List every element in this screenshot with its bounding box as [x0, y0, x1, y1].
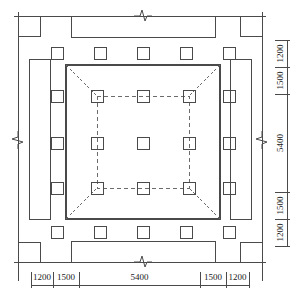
edge-band-top-break-symbol: [134, 10, 152, 21]
hip-diagonal-bottom-right: [189, 188, 220, 219]
dimension-label-bottom-1: 1500: [57, 272, 76, 282]
edge-band-left: [29, 59, 50, 219]
dimension-label-bottom-2: 5400: [131, 272, 150, 282]
column-outer-left-1: [51, 137, 63, 149]
column-outer-bottom-3: [180, 226, 192, 238]
dimension-label-right-0: 1200: [275, 44, 285, 63]
corner-block-top-left: [18, 16, 40, 36]
column-outer-left-0: [51, 90, 63, 102]
column-outer-left-2: [51, 182, 63, 194]
column-outer-top-0: [51, 47, 63, 59]
edge-band-bottom-break-symbol: [134, 256, 152, 267]
column-outer-top-4: [223, 47, 235, 59]
dimension-label-right-1: 1500: [275, 71, 285, 90]
column-outer-bottom-2: [137, 226, 149, 238]
dimension-label-right-4: 1200: [275, 223, 285, 242]
dimension-label-right-2: 5400: [275, 134, 285, 153]
column-outer-right-2: [223, 182, 235, 194]
hip-diagonal-bottom-left: [66, 188, 97, 219]
corner-block-top-right: [240, 16, 262, 36]
hip-diagonal-top-left: [66, 65, 97, 96]
structural-plan-drawing: 1200150054001500120012001500540015001200: [0, 0, 306, 304]
edge-band-left-break-symbol: [12, 131, 23, 149]
column-outer-bottom-0: [51, 226, 63, 238]
edge-band-right-break-symbol: [256, 131, 267, 149]
edge-band-top: [71, 16, 215, 37]
column-inner-4: [137, 137, 149, 149]
column-outer-top-2: [137, 47, 149, 59]
hip-diagonal-top-right: [189, 65, 220, 96]
edge-band-right: [230, 59, 251, 219]
corner-block-bottom-right: [240, 242, 262, 262]
column-outer-right-1: [223, 137, 235, 149]
dimension-label-bottom-4: 1200: [229, 272, 248, 282]
dimension-label-bottom-0: 1200: [33, 272, 52, 282]
corner-block-bottom-left: [18, 242, 40, 262]
column-outer-top-1: [94, 47, 106, 59]
column-outer-top-3: [180, 47, 192, 59]
inner-dashed-square: [97, 96, 189, 188]
plan-canvas: 1200150054001500120012001500540015001200: [0, 0, 306, 304]
dimension-label-right-3: 1500: [275, 196, 285, 215]
dimension-label-bottom-3: 1500: [204, 272, 223, 282]
column-outer-bottom-4: [223, 226, 235, 238]
column-outer-right-0: [223, 90, 235, 102]
column-outer-bottom-1: [94, 226, 106, 238]
